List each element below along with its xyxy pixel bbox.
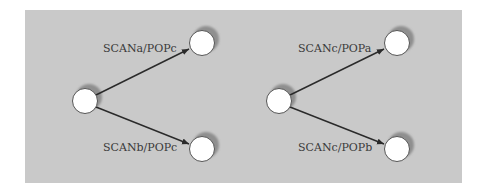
right-diagram: SCANc/POPa SCANc/POPb bbox=[267, 26, 415, 162]
left-diagram: SCANa/POPc SCANb/POPc bbox=[73, 26, 220, 162]
bottom-node bbox=[190, 137, 215, 162]
bottom-node bbox=[385, 137, 410, 162]
source-node bbox=[267, 89, 292, 114]
edge-label-bottom: SCANb/POPc bbox=[103, 141, 177, 154]
top-node bbox=[385, 31, 410, 56]
state-diagrams: SCANa/POPc SCANb/POPc SCANc/POPa SCANc/P… bbox=[0, 0, 484, 192]
edge-to-bottom bbox=[290, 107, 384, 144]
edge-label-bottom: SCANc/POPb bbox=[298, 141, 372, 154]
edge-to-top bbox=[290, 49, 384, 95]
edge-to-top bbox=[96, 49, 189, 95]
edge-label-top: SCANc/POPa bbox=[298, 42, 372, 55]
source-node bbox=[73, 89, 98, 114]
edge-label-top: SCANa/POPc bbox=[103, 42, 177, 55]
edge-to-bottom bbox=[96, 107, 189, 144]
top-node bbox=[190, 31, 215, 56]
